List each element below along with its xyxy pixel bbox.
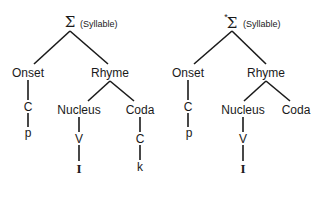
- left-edge-rhyme-coda: [110, 81, 134, 101]
- right-root-label: (Syllable): [243, 19, 281, 29]
- right-nucleus-slot: V: [239, 132, 247, 146]
- left-onset-node: Onset: [12, 66, 45, 80]
- left-nucleus-segment: I: [76, 161, 81, 176]
- right-rhyme-node: Rhyme: [247, 66, 285, 80]
- left-onset-slot: C: [24, 100, 33, 114]
- left-coda-node: Coda: [126, 103, 155, 117]
- left-rhyme-node: Rhyme: [91, 66, 129, 80]
- left-edge-root-rhyme: [70, 31, 108, 64]
- left-nucleus-slot: V: [75, 132, 83, 146]
- tree-left: Σ (Syllable) Onset Rhyme C p Nucleus Cod…: [12, 13, 155, 176]
- right-onset-node: Onset: [172, 66, 205, 80]
- tree-right: * Σ (Syllable) Onset Rhyme C p Nucleus C…: [172, 12, 311, 176]
- right-edge-root-rhyme: [232, 31, 266, 64]
- syllable-diagram: Σ (Syllable) Onset Rhyme C p Nucleus Cod…: [0, 0, 314, 203]
- right-onset-slot: C: [184, 100, 193, 114]
- right-edge-rhyme-coda: [266, 81, 290, 101]
- right-edge-root-onset: [194, 31, 232, 64]
- right-root-sigma: Σ: [227, 14, 238, 32]
- left-onset-segment: p: [25, 126, 32, 140]
- right-nucleus-segment: I: [240, 161, 245, 176]
- left-edge-root-onset: [34, 31, 70, 64]
- left-root-sigma: Σ: [65, 13, 76, 31]
- left-coda-segment: k: [137, 160, 144, 174]
- right-onset-segment: p: [186, 126, 193, 140]
- left-root-label: (Syllable): [80, 19, 118, 29]
- right-edge-rhyme-nucleus: [244, 81, 266, 101]
- left-edge-rhyme-nucleus: [88, 81, 110, 101]
- right-nucleus-node: Nucleus: [221, 103, 264, 117]
- left-nucleus-node: Nucleus: [57, 103, 100, 117]
- right-coda-node: Coda: [282, 103, 311, 117]
- left-coda-slot: C: [136, 132, 145, 146]
